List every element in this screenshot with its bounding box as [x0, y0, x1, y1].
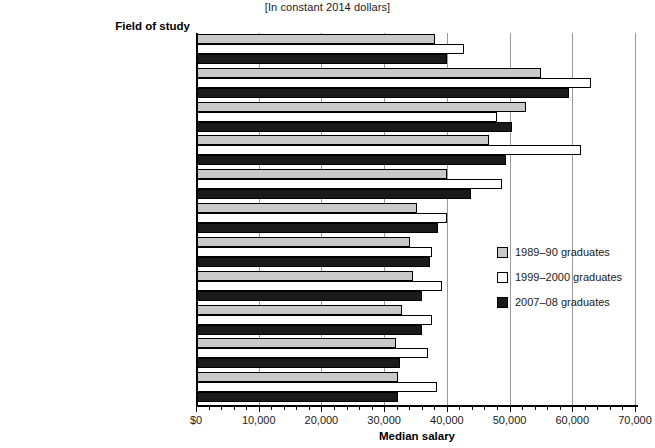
x-tick-minor — [347, 406, 348, 410]
bar — [197, 247, 432, 257]
x-tick-minor — [234, 406, 235, 410]
x-tick-minor — [522, 406, 523, 410]
x-tick-major — [259, 406, 260, 412]
x-tick-label: 70,000 — [595, 414, 655, 426]
y-axis-line — [196, 33, 198, 405]
legend-item[interactable]: 1989–90 graduates — [497, 246, 622, 258]
bar — [197, 88, 569, 98]
bar — [197, 348, 428, 358]
x-tick-major — [384, 406, 385, 412]
bar — [197, 372, 398, 382]
bar — [197, 223, 438, 233]
x-tick-major — [510, 406, 511, 412]
bar — [197, 338, 396, 348]
bar — [197, 281, 442, 291]
x-tick-minor — [209, 406, 210, 410]
bar — [197, 189, 471, 199]
legend-item[interactable]: 2007–08 graduates — [497, 296, 622, 308]
bar — [197, 34, 435, 44]
legend-swatch-icon — [497, 247, 508, 258]
bar — [197, 271, 413, 281]
bar — [197, 68, 541, 78]
x-tick-major — [447, 406, 448, 412]
x-tick-minor — [372, 406, 373, 410]
bar-group: Business and management — [196, 169, 638, 199]
x-tick-minor — [221, 406, 222, 410]
bar-group: Social sciences and history — [196, 203, 638, 233]
bar — [197, 44, 464, 54]
legend-swatch-icon — [497, 297, 508, 308]
x-tick-minor — [422, 406, 423, 410]
x-tick-minor — [597, 406, 598, 410]
x-tick-major — [196, 406, 197, 412]
bar — [197, 203, 417, 213]
x-tick-minor — [585, 406, 586, 410]
x-tick-minor — [271, 406, 272, 410]
legend-item[interactable]: 1999–2000 graduates — [497, 271, 622, 283]
x-tick-minor — [359, 406, 360, 410]
x-tick-minor — [397, 406, 398, 410]
x-tick-minor — [547, 406, 548, 410]
bar — [197, 78, 591, 88]
x-tick-minor — [560, 406, 561, 410]
bar — [197, 112, 497, 122]
bar-group: Humanities — [196, 372, 638, 402]
bar — [197, 213, 447, 223]
bar-group: Engineering — [196, 68, 638, 98]
x-tick-minor — [497, 406, 498, 410]
chart-legend: 1989–90 graduates1999–2000 graduates2007… — [497, 246, 622, 321]
x-tick-minor — [472, 406, 473, 410]
x-tick-major — [635, 406, 636, 412]
x-tick-minor — [309, 406, 310, 410]
bar-group: Health professions — [196, 102, 638, 132]
median-salary-bar-chart: [In constant 2014 dollars] Field of stud… — [0, 0, 655, 448]
x-tick-minor — [459, 406, 460, 410]
bar — [197, 237, 410, 247]
bar — [197, 325, 422, 335]
bar-group: All fields1 — [196, 34, 638, 64]
x-tick-minor — [296, 406, 297, 410]
bar — [197, 145, 581, 155]
bar — [197, 122, 512, 132]
bar — [197, 135, 489, 145]
x-tick-minor — [334, 406, 335, 410]
bar — [197, 179, 502, 189]
x-tick-major — [321, 406, 322, 412]
legend-label: 2007–08 graduates — [515, 296, 610, 308]
bar — [197, 358, 400, 368]
field-of-study-header: Field of study — [0, 20, 190, 32]
x-tick-minor — [622, 406, 623, 410]
x-tick-major — [572, 406, 573, 412]
x-tick-minor — [434, 406, 435, 410]
x-tick-minor — [610, 406, 611, 410]
x-axis-label: Median salary — [196, 430, 638, 442]
x-tick-minor — [535, 406, 536, 410]
bar — [197, 102, 526, 112]
bar — [197, 315, 432, 325]
x-tick-minor — [284, 406, 285, 410]
bar-group: Psychology — [196, 338, 638, 368]
bar — [197, 392, 398, 402]
x-tick-minor — [484, 406, 485, 410]
x-tick-minor — [246, 406, 247, 410]
bar — [197, 305, 402, 315]
bar-group: Mathematics and computer science2 — [196, 135, 638, 165]
bar — [197, 257, 430, 267]
bar — [197, 155, 506, 165]
bar — [197, 169, 447, 179]
legend-label: 1989–90 graduates — [515, 246, 610, 258]
legend-swatch-icon — [497, 272, 508, 283]
bar — [197, 291, 422, 301]
x-tick-minor — [409, 406, 410, 410]
bar — [197, 54, 447, 64]
legend-label: 1999–2000 graduates — [515, 271, 622, 283]
bar — [197, 382, 437, 392]
plot-area: All fields1EngineeringHealth professions… — [196, 33, 638, 405]
chart-subtitle: [In constant 2014 dollars] — [0, 1, 655, 13]
